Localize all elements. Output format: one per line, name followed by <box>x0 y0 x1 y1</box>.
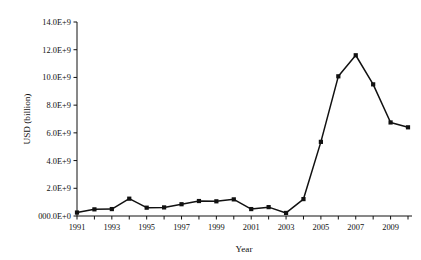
series-marker <box>371 82 375 86</box>
series-marker <box>336 74 340 78</box>
y-tick-label: 6.0E+9 <box>47 129 72 138</box>
series-marker <box>354 53 358 57</box>
series-marker <box>127 197 131 201</box>
x-tick-label: 2003 <box>278 223 295 232</box>
series-marker <box>319 140 323 144</box>
y-tick-label: 8.0E+9 <box>47 101 72 110</box>
x-tick-label: 2005 <box>313 223 330 232</box>
series-marker <box>388 120 392 124</box>
series-markers <box>75 53 410 215</box>
x-tick-label: 1991 <box>69 223 86 232</box>
series-marker <box>406 125 410 129</box>
y-tick-label: 10.0E+9 <box>42 73 71 82</box>
x-axis-tick-marks <box>77 216 408 220</box>
y-axis-tick-labels: 000.0E+02.0E+94.0E+96.0E+98.0E+910.0E+91… <box>38 18 71 221</box>
series-marker <box>232 197 236 201</box>
x-tick-label: 1995 <box>138 223 155 232</box>
y-tick-label: 2.0E+9 <box>47 184 72 193</box>
y-tick-label: 12.0E+9 <box>42 46 71 55</box>
x-tick-label: 2007 <box>347 223 364 232</box>
series-marker <box>75 210 79 214</box>
series-marker <box>145 206 149 210</box>
series-marker <box>249 207 253 211</box>
series-marker <box>92 207 96 211</box>
x-tick-label: 1997 <box>173 223 190 232</box>
series-marker <box>267 205 271 209</box>
y-tick-label: 000.0E+0 <box>38 212 71 221</box>
series-marker <box>197 199 201 203</box>
series-marker <box>179 202 183 206</box>
y-axis-title: USD (billion) <box>22 94 32 145</box>
x-tick-label: 2009 <box>382 223 399 232</box>
y-axis-tick-marks <box>74 22 78 216</box>
series-marker <box>284 211 288 215</box>
series-marker <box>214 199 218 203</box>
chart-figure: 000.0E+02.0E+94.0E+96.0E+98.0E+910.0E+91… <box>0 0 421 260</box>
x-tick-label: 1993 <box>103 223 120 232</box>
series-line-usd-billion <box>77 55 408 213</box>
series-marker <box>110 207 114 211</box>
series-marker <box>162 205 166 209</box>
series-marker <box>301 197 305 201</box>
x-axis-tick-labels: 1991199319951997199920012003200520072009 <box>69 223 399 232</box>
x-axis-title: Year <box>236 244 253 254</box>
y-tick-label: 4.0E+9 <box>47 157 72 166</box>
x-tick-label: 2001 <box>243 223 260 232</box>
x-tick-label: 1999 <box>208 223 225 232</box>
y-tick-label: 14.0E+9 <box>42 18 71 27</box>
line-chart: 000.0E+02.0E+94.0E+96.0E+98.0E+910.0E+91… <box>0 0 421 260</box>
